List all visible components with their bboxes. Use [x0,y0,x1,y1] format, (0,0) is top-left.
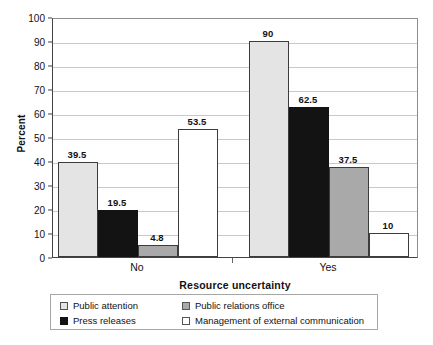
legend-item-public-relations-office: Public relations office [182,300,285,311]
y-axis-tick-label: 10 [34,229,45,240]
bar-chart-figure: Percent 0102030405060708090100 Resource … [0,0,433,345]
bar [289,107,329,257]
gridline [53,67,417,68]
legend-item-public-attention: Public attention [60,300,182,311]
bar [369,233,409,257]
legend-label: Public relations office [195,300,285,311]
bar [98,210,138,257]
x-axis-group-label: Yes [319,261,336,273]
gridline [53,163,417,164]
bar-value-label: 39.5 [68,149,87,160]
legend-label: Press releases [73,315,136,326]
y-axis-tick-label: 40 [34,157,45,168]
bar [138,245,178,257]
bar-value-label: 4.8 [150,232,164,243]
y-axis-tick-label: 50 [34,133,45,144]
bar-value-label: 10 [383,220,394,231]
legend: Public attention Public relations office… [50,294,378,330]
bar-value-label: 90 [263,28,274,39]
plot-area [52,18,418,258]
y-axis-tick-label: 30 [34,181,45,192]
legend-swatch-icon [60,302,68,310]
legend-swatch-icon [182,302,190,310]
legend-swatch-icon [182,317,190,325]
bar-value-label: 53.5 [188,116,207,127]
y-axis-tick-label: 0 [39,253,45,264]
legend-item-management-external-communication: Management of external communication [182,315,364,326]
bar-value-label: 62.5 [299,94,318,105]
legend-label: Public attention [73,300,138,311]
gridline [53,139,417,140]
x-axis-separator-tick [232,258,233,263]
y-axis-tick-label: 20 [34,205,45,216]
y-axis-tick-label: 80 [34,61,45,72]
y-axis-tick-label: 70 [34,85,45,96]
gridline [53,115,417,116]
legend-row: Press releases Management of external co… [60,314,377,327]
bar [249,41,289,257]
bar [178,129,218,257]
legend-item-press-releases: Press releases [60,315,182,326]
gridline [53,91,417,92]
legend-label: Management of external communication [195,315,364,326]
x-axis-group-label: No [130,261,143,273]
bar-value-label: 19.5 [108,197,127,208]
gridline [53,43,417,44]
y-axis-ticks: 0102030405060708090100 [0,18,52,258]
y-axis-tick-label: 90 [34,37,45,48]
legend-row: Public attention Public relations office [60,299,377,312]
bar [58,162,98,257]
legend-swatch-icon [60,317,68,325]
x-axis-title: Resource uncertainty [52,279,418,291]
y-axis-tick-label: 100 [28,13,45,24]
y-axis-tick-label: 60 [34,109,45,120]
bar [329,167,369,257]
bar-value-label: 37.5 [339,154,358,165]
